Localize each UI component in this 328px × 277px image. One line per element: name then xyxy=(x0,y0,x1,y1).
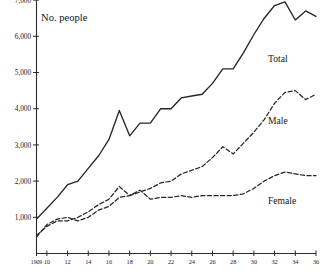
series-label-male: Male xyxy=(268,115,288,126)
series-line-male xyxy=(37,91,317,236)
x-tick-label: 24 xyxy=(189,258,196,265)
x-tick-label: 10 xyxy=(44,258,50,265)
chart-container: 1,0002,0003,0004,0005,0006,0007,000 1909… xyxy=(0,0,328,277)
y-tick-label: 4,000 xyxy=(15,104,32,113)
x-tick-label: 22 xyxy=(168,258,174,265)
x-tick-label: 32 xyxy=(271,258,277,265)
series-labels: TotalMaleFemale xyxy=(268,53,296,206)
y-tick-label: 7,000 xyxy=(15,0,32,5)
series-label-female: Female xyxy=(268,195,296,206)
x-tick-label: 26 xyxy=(209,258,215,265)
x-tick-label: 1909 xyxy=(31,259,43,265)
x-tick-label: 16 xyxy=(106,258,112,265)
series-line-total xyxy=(37,2,317,219)
x-tick-label: 30 xyxy=(251,258,257,265)
y-axis: 1,0002,0003,0004,0005,0006,0007,000 xyxy=(15,0,39,254)
x-tick-label: 34 xyxy=(292,258,299,265)
y-tick-label: 3,000 xyxy=(15,141,32,150)
x-tick-label: 36 xyxy=(313,258,319,265)
x-tick-label: 14 xyxy=(85,258,92,265)
x-tick-label: 18 xyxy=(127,258,133,265)
y-tick-label: 2,000 xyxy=(15,177,32,186)
x-tick-label: 12 xyxy=(64,258,70,265)
series-label-total: Total xyxy=(268,53,288,64)
line-chart: 1,0002,0003,0004,0005,0006,0007,000 1909… xyxy=(0,0,328,277)
y-tick-label: 5,000 xyxy=(15,68,32,77)
x-tick-label: 28 xyxy=(230,258,236,265)
y-tick-label: 1,000 xyxy=(15,213,32,222)
x-tick-label: 20 xyxy=(147,258,153,265)
x-axis: 19091012141618202224262830323436 xyxy=(31,251,319,265)
y-tick-label: 6,000 xyxy=(15,32,32,41)
chart-title: No. people xyxy=(41,12,88,23)
